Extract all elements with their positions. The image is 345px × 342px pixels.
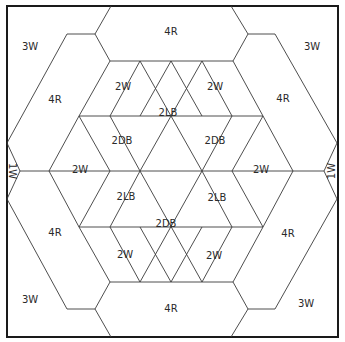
label-corner-top-left: 3W xyxy=(22,41,38,52)
label-white-lower-right: 2W xyxy=(206,250,222,261)
label-corner-bottom-left: 3W xyxy=(22,294,38,305)
label-white-right: 2W xyxy=(253,164,269,175)
label-diamond-bottom: 2DB xyxy=(156,218,177,229)
label-side-right: 1W xyxy=(326,163,337,179)
label-white-upper-right: 2W xyxy=(207,81,223,92)
label-ring-top: 4R xyxy=(164,26,177,37)
quilt-block-diagram: 3W 3W 3W 3W 1W 1W 4R 4R 4R 4R 4R 4R 2W 2… xyxy=(0,0,345,342)
label-corner-top-right: 3W xyxy=(304,41,320,52)
label-diamond-upper-left: 2DB xyxy=(112,135,133,146)
label-diamond-top: 2LB xyxy=(159,107,178,118)
label-white-lower-left: 2W xyxy=(117,249,133,260)
label-ring-lower-left: 4R xyxy=(48,227,61,238)
label-ring-lower-right: 4R xyxy=(281,228,294,239)
label-diamond-lower-right: 2LB xyxy=(208,192,227,203)
label-ring-upper-left: 4R xyxy=(48,94,61,105)
label-side-left: 1W xyxy=(7,163,18,179)
label-ring-bottom: 4R xyxy=(164,303,177,314)
label-corner-bottom-right: 3W xyxy=(298,298,314,309)
label-diamond-lower-left: 2LB xyxy=(117,191,136,202)
label-white-left: 2W xyxy=(72,164,88,175)
label-diamond-upper-right: 2DB xyxy=(205,135,226,146)
label-ring-upper-right: 4R xyxy=(276,93,289,104)
label-white-upper-left: 2W xyxy=(115,81,131,92)
